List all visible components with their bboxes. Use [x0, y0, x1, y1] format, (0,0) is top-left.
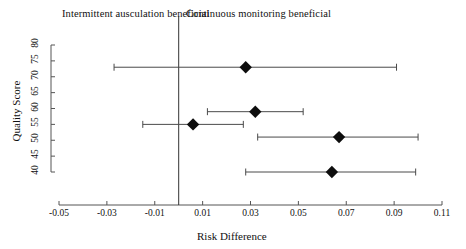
y-tick-label: 80: [30, 30, 40, 56]
forest-row: [258, 131, 418, 143]
x-tick-label: -0.05: [39, 208, 79, 218]
effect-estimate-diamond: [240, 61, 252, 73]
forest-row: [114, 61, 396, 73]
series-layer: [114, 61, 418, 178]
axes-layer: [51, 16, 442, 205]
forest-row: [143, 118, 244, 130]
forest-row: [207, 105, 303, 117]
x-tick-label: 0.09: [374, 208, 414, 218]
x-tick-label: -0.03: [87, 208, 127, 218]
forest-plot-figure: Intermittent ausculation beneficial Cont…: [0, 0, 466, 249]
forest-row: [246, 166, 416, 178]
x-tick-label: -0.01: [135, 208, 175, 218]
x-tick-label: 0.11: [422, 208, 462, 218]
effect-estimate-diamond: [326, 166, 338, 178]
x-tick-label: 0.05: [278, 208, 318, 218]
x-tick-label: 0.01: [183, 208, 223, 218]
x-tick-label: 0.03: [231, 208, 271, 218]
effect-estimate-diamond: [333, 131, 345, 143]
x-tick-label: 0.07: [326, 208, 366, 218]
effect-estimate-diamond: [249, 105, 261, 117]
effect-estimate-diamond: [187, 118, 199, 130]
